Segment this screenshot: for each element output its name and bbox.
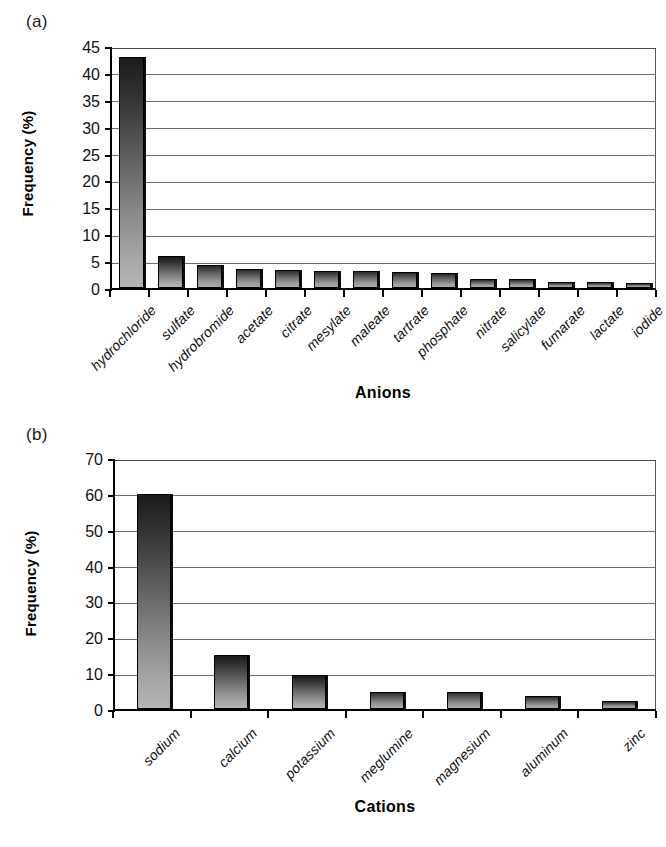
- y-tick-label: 5: [56, 255, 100, 271]
- bar: [197, 265, 222, 288]
- gridline: [112, 182, 656, 183]
- y-axis-title-anions: Frequency (%): [19, 44, 36, 284]
- gridline: [115, 567, 656, 568]
- y-tick-label: 70: [59, 452, 103, 468]
- x-tick: [345, 711, 347, 718]
- plot-area-anions: [110, 48, 656, 290]
- bar: [525, 696, 559, 709]
- bar: [470, 279, 495, 288]
- y-tick-label: 20: [56, 174, 100, 190]
- bar: [392, 272, 417, 288]
- x-tick: [655, 711, 657, 718]
- x-tick: [421, 290, 423, 297]
- x-tick: [148, 290, 150, 297]
- gridline: [115, 603, 656, 604]
- x-tick: [109, 290, 111, 297]
- x-tick: [112, 711, 114, 718]
- bar: [602, 701, 636, 709]
- gridline: [112, 128, 656, 129]
- panel-label-b: (b): [26, 425, 48, 445]
- bar: [370, 692, 404, 709]
- y-tick-label: 25: [56, 148, 100, 164]
- gridline: [112, 236, 656, 237]
- x-axis-title-cations: Cations: [185, 798, 585, 816]
- gridline: [115, 639, 656, 640]
- chart-panel-anions: (a) Frequency (%) 051015202530354045 hyd…: [0, 0, 666, 420]
- x-tick: [226, 290, 228, 297]
- y-tick-label: 0: [59, 703, 103, 719]
- y-tick: [105, 155, 112, 157]
- y-tick: [105, 181, 112, 183]
- bar: [236, 269, 261, 288]
- gridline: [115, 495, 656, 496]
- chart-panel-cations: (b) Frequency (%) 010203040506070 sodium…: [0, 420, 666, 847]
- x-tick: [655, 290, 657, 297]
- y-axis-title-cations: Frequency (%): [22, 464, 39, 704]
- x-tick: [187, 290, 189, 297]
- x-tick: [499, 290, 501, 297]
- bar: [587, 282, 612, 288]
- y-tick: [105, 128, 112, 130]
- bar: [292, 675, 326, 709]
- x-tick: [460, 290, 462, 297]
- gridline: [112, 209, 656, 210]
- bar: [431, 273, 456, 288]
- x-tick: [265, 290, 267, 297]
- x-tick: [538, 290, 540, 297]
- plot-right-border: [655, 460, 656, 709]
- y-tick-label: 0: [56, 282, 100, 298]
- bar: [509, 279, 534, 288]
- bar: [314, 271, 339, 288]
- y-tick: [105, 208, 112, 210]
- y-tick-label: 35: [56, 94, 100, 110]
- y-tick: [108, 459, 115, 461]
- gridline: [112, 263, 656, 264]
- bar: [626, 283, 651, 288]
- x-tick: [343, 290, 345, 297]
- y-tick: [105, 262, 112, 264]
- y-tick-label: 10: [56, 228, 100, 244]
- panel-label-a: (a): [26, 12, 48, 32]
- gridline: [115, 531, 656, 532]
- y-tick: [108, 495, 115, 497]
- y-tick: [105, 101, 112, 103]
- x-tick: [577, 711, 579, 718]
- y-tick-label: 20: [59, 631, 103, 647]
- bar: [548, 282, 573, 288]
- plot-area-cations: [113, 460, 656, 711]
- gridline: [112, 48, 656, 49]
- y-tick: [105, 235, 112, 237]
- y-tick: [108, 567, 115, 569]
- gridline: [115, 675, 656, 676]
- y-tick: [105, 47, 112, 49]
- y-tick-label: 40: [56, 67, 100, 83]
- y-tick: [108, 602, 115, 604]
- y-tick-label: 50: [59, 524, 103, 540]
- y-tick: [108, 674, 115, 676]
- x-tick: [190, 711, 192, 718]
- x-tick: [577, 290, 579, 297]
- bar: [353, 271, 378, 288]
- y-tick-label: 45: [56, 40, 100, 56]
- x-tick: [382, 290, 384, 297]
- y-tick: [105, 74, 112, 76]
- plot-right-border: [655, 48, 656, 288]
- y-tick-label: 10: [59, 667, 103, 683]
- bar: [214, 655, 248, 709]
- y-tick-label: 30: [56, 121, 100, 137]
- bar: [158, 256, 183, 288]
- y-tick-label: 15: [56, 201, 100, 217]
- bar: [137, 494, 171, 709]
- x-tick: [304, 290, 306, 297]
- y-tick-label: 40: [59, 560, 103, 576]
- gridline: [112, 101, 656, 102]
- bar: [275, 270, 300, 288]
- y-tick-label: 60: [59, 488, 103, 504]
- x-axis-title-anions: Anions: [183, 384, 583, 402]
- y-tick: [108, 638, 115, 640]
- x-tick: [422, 711, 424, 718]
- x-tick: [267, 711, 269, 718]
- gridline: [115, 460, 656, 461]
- bar: [447, 692, 481, 709]
- x-tick: [616, 290, 618, 297]
